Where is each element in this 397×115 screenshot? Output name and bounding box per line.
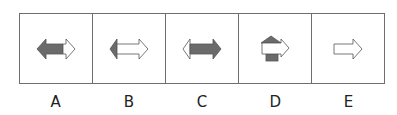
option-label-b: B [92,92,165,112]
answer-options-frame [19,13,385,84]
double-arrow-icon [182,38,222,60]
double-arrow-icon [109,38,149,60]
option-a-box[interactable] [20,14,93,83]
option-b-box[interactable] [93,14,166,83]
option-label-c: C [165,92,238,112]
option-e-box[interactable] [312,14,384,83]
option-label-e: E [312,92,385,112]
double-arrow-icon [36,38,76,60]
option-labels: A B C D E [19,92,385,112]
option-c-box[interactable] [166,14,239,83]
right-arrow-icon [333,38,363,60]
option-label-d: D [239,92,312,112]
combined-arrows-icon [259,35,291,63]
option-label-a: A [19,92,92,112]
option-d-box[interactable] [239,14,312,83]
